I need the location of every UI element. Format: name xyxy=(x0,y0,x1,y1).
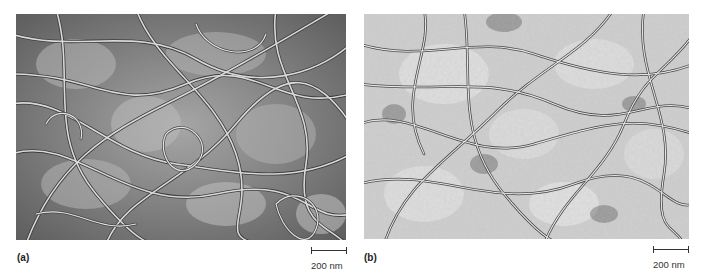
scale-bar-label-a: 200 nm xyxy=(311,260,343,271)
scale-bar-label-b: 200 nm xyxy=(653,259,685,270)
scale-bar-a xyxy=(311,247,347,254)
micrograph-b-image xyxy=(364,14,689,239)
scale-bar-b xyxy=(653,246,689,253)
panel-label-b: (b) xyxy=(364,252,377,263)
micrograph-b xyxy=(364,14,689,239)
micrograph-a xyxy=(16,14,346,240)
micrograph-a-image xyxy=(16,14,346,240)
panel-label-a: (a) xyxy=(17,252,29,263)
